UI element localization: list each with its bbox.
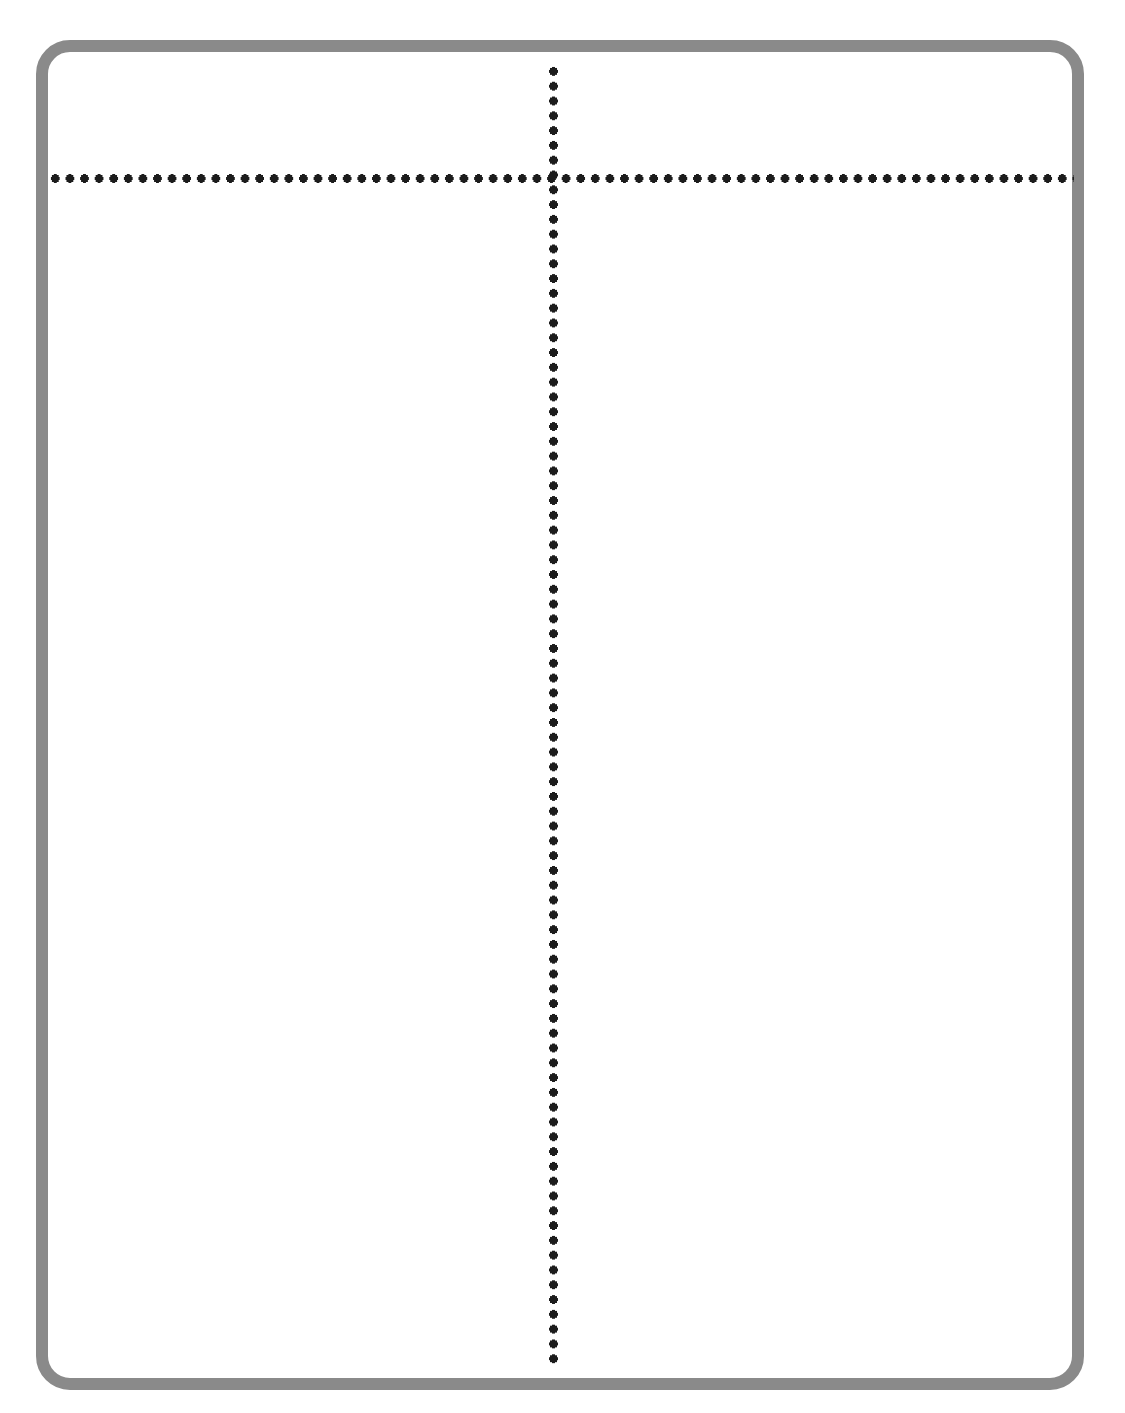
worksheet-canvas bbox=[0, 0, 1125, 1413]
header-row[interactable] bbox=[52, 56, 1068, 172]
left-column[interactable] bbox=[52, 186, 546, 1372]
right-column[interactable] bbox=[562, 186, 1068, 1372]
horizontal-dotted-divider bbox=[48, 174, 1074, 183]
vertical-dotted-divider bbox=[549, 64, 558, 1366]
